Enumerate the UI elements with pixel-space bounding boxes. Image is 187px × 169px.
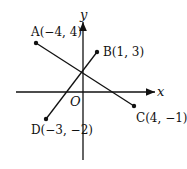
label-D: D(−3, −2) [31, 123, 93, 137]
point-B [95, 50, 99, 54]
point-D [44, 117, 48, 121]
y-axis-label: y [79, 7, 88, 22]
point-C [132, 104, 136, 108]
label-B: B(1, 3) [103, 45, 144, 59]
coordinate-diagram: x y O A(−4, 4) B(1, 3) C(4, −1) D(−3, −2… [0, 0, 187, 169]
x-axis-label: x [157, 84, 165, 99]
origin-label: O [70, 94, 81, 109]
point-A [34, 41, 38, 45]
label-C: C(4, −1) [136, 111, 187, 125]
label-A: A(−4, 4) [30, 25, 82, 39]
